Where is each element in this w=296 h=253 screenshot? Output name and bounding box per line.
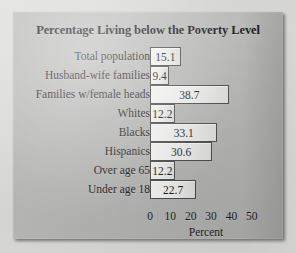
bar-row: Total population15.1 — [13, 47, 283, 66]
x-tick-label: 30 — [205, 210, 217, 222]
x-axis-ticks: 01020304050 — [13, 210, 283, 226]
bar: 33.1 — [150, 123, 217, 142]
category-label: Whites — [117, 104, 150, 123]
bar-value-label: 33.1 — [174, 127, 194, 139]
x-tick-label: 20 — [185, 210, 197, 222]
bar: 9.4 — [150, 66, 169, 85]
bar: 30.6 — [150, 142, 212, 161]
bar-row: Over age 6512.2 — [13, 161, 283, 180]
x-tick-label: 10 — [165, 210, 177, 222]
bar-row: Blacks33.1 — [13, 123, 283, 142]
bar: 12.2 — [150, 161, 175, 180]
bar-row: Families w/female heads38.7 — [13, 85, 283, 104]
bar-value-label: 15.1 — [155, 51, 175, 63]
chart-page: Percentage Living below the Poverty Leve… — [0, 0, 296, 253]
plot-area: Total population15.1Husband-wife familie… — [13, 12, 283, 239]
category-label: Husband-wife families — [45, 66, 150, 85]
bar-value-label: 12.2 — [152, 108, 172, 120]
bar-value-label: 38.7 — [179, 89, 199, 101]
bar-value-label: 30.6 — [171, 146, 191, 158]
bar: 38.7 — [150, 85, 229, 104]
bar-row: Whites12.2 — [13, 104, 283, 123]
category-label: Hispanics — [105, 142, 150, 161]
x-tick-label: 0 — [147, 210, 153, 222]
bar: 15.1 — [150, 47, 181, 66]
bar: 22.7 — [150, 180, 196, 199]
chart-panel: Percentage Living below the Poverty Leve… — [13, 12, 283, 239]
bar-row: Under age 1822.7 — [13, 180, 283, 199]
bar-value-label: 22.7 — [163, 184, 183, 196]
category-label: Under age 18 — [88, 180, 150, 199]
category-label: Blacks — [119, 123, 150, 142]
bar-value-label: 12.2 — [152, 165, 172, 177]
category-label: Over age 65 — [94, 161, 150, 180]
bar-row: Husband-wife families9.4 — [13, 66, 283, 85]
x-tick-label: 50 — [246, 210, 258, 222]
category-label: Total population — [74, 47, 150, 66]
bar: 12.2 — [150, 104, 175, 123]
bar-value-label: 9.4 — [152, 70, 166, 82]
x-tick-label: 40 — [226, 210, 238, 222]
bar-row: Hispanics30.6 — [13, 142, 283, 161]
x-axis-label: Percent — [150, 226, 262, 238]
category-label: Families w/female heads — [36, 85, 150, 104]
